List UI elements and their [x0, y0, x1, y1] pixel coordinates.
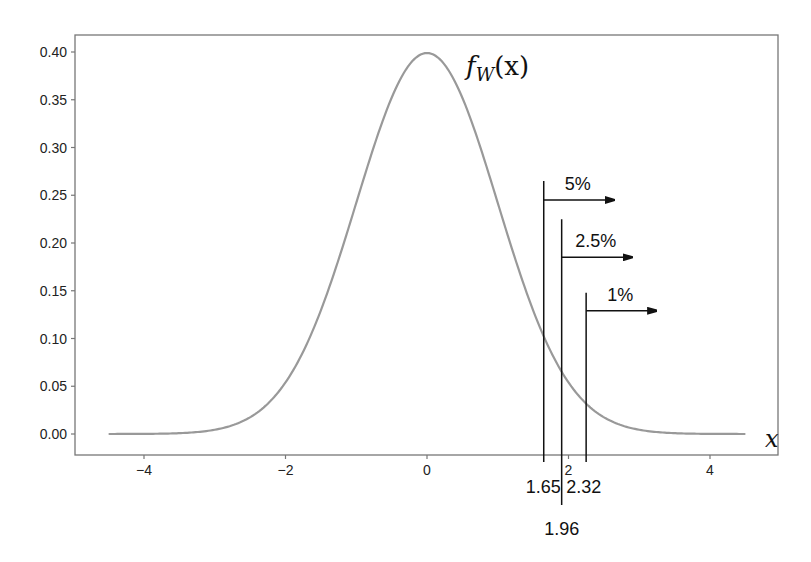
tail-percent-label: 1% [607, 285, 633, 305]
tail-percent-label: 5% [565, 174, 591, 194]
critical-value-label: 1.96 [544, 519, 579, 539]
critical-value-2.32: 1%2.32 [566, 285, 656, 497]
normal-density-chart: 0.000.050.100.150.200.250.300.350.40 −4−… [0, 0, 811, 562]
y-axis: 0.000.050.100.150.200.250.300.350.40 [40, 44, 75, 442]
y-tick-label: 0.20 [40, 235, 67, 251]
tail-percent-label: 2.5% [575, 231, 616, 251]
x-tick-label: −2 [278, 462, 294, 478]
plot-frame [75, 35, 778, 455]
y-tick-label: 0.10 [40, 331, 67, 347]
x-tick-label: −4 [136, 462, 152, 478]
x-axis-label: x [765, 425, 779, 453]
y-tick-label: 0.25 [40, 187, 67, 203]
y-tick-label: 0.40 [40, 44, 67, 60]
x-axis: −4−2024 [136, 455, 714, 478]
curve-label-fw: fW(x) [464, 51, 529, 85]
critical-value-label: 2.32 [566, 477, 601, 497]
critical-value-label: 1.65 [526, 477, 561, 497]
y-tick-label: 0.05 [40, 378, 67, 394]
x-tick-label: 4 [706, 462, 714, 478]
y-tick-label: 0.15 [40, 283, 67, 299]
density-curve [109, 53, 746, 434]
x-tick-label: 2 [565, 462, 573, 478]
critical-value-annotations: 5%1.652.5%1.961%2.32 [526, 174, 656, 539]
y-tick-label: 0.30 [40, 140, 67, 156]
y-tick-label: 0.35 [40, 92, 67, 108]
critical-value-1.65: 5%1.65 [526, 174, 614, 497]
y-tick-label: 0.00 [40, 426, 67, 442]
x-tick-label: 0 [423, 462, 431, 478]
